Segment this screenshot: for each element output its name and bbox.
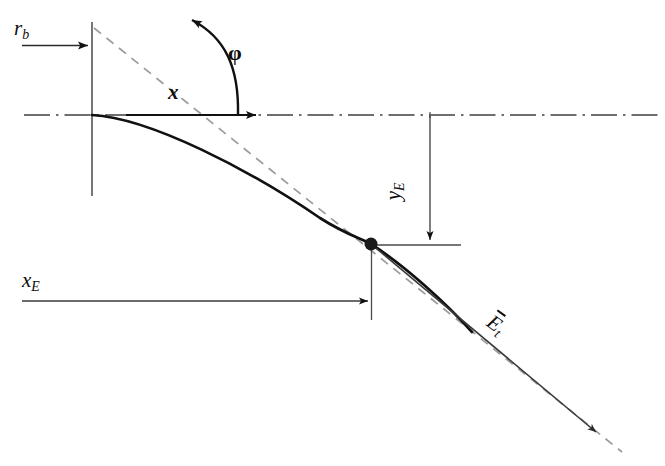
label-y-E: yE: [381, 183, 408, 201]
label-y-E-symbol: y: [381, 191, 405, 200]
label-x-symbol: x: [168, 80, 179, 104]
label-r-b-symbol: r: [14, 16, 22, 40]
label-r-b: rb: [14, 16, 29, 43]
label-x-E-subscript: E: [31, 279, 39, 294]
diagram-figure: rb x φ xE yE Et: [0, 0, 665, 466]
label-phi: φ: [228, 40, 242, 66]
point-E-marker: [365, 238, 378, 251]
label-x-E-symbol: x: [22, 268, 31, 292]
trajectory-curve: [92, 115, 472, 332]
label-phi-symbol: φ: [228, 40, 242, 65]
diagram-canvas: [0, 0, 665, 466]
tangent-ray-at-E: [371, 244, 596, 432]
label-x: x: [168, 80, 179, 105]
label-y-E-subscript: E: [392, 183, 407, 191]
label-r-b-subscript: b: [22, 27, 29, 42]
phi-angle-arc: [192, 20, 238, 115]
label-x-E: xE: [22, 268, 40, 295]
